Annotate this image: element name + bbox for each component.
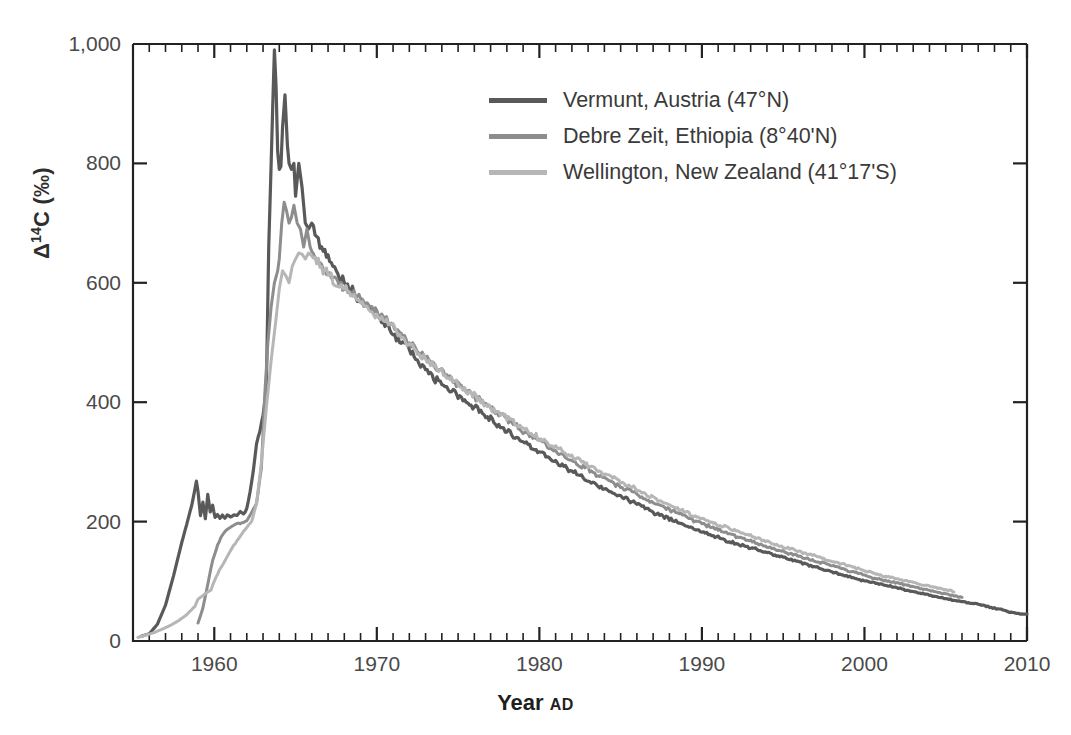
- x-tick-label: 1990: [679, 652, 726, 675]
- x-tick-label: 2010: [1004, 652, 1051, 675]
- y-axis-label-rest: C (‰): [29, 167, 54, 227]
- y-axis-label: Δ14C (‰): [28, 59, 55, 259]
- legend-item[interactable]: Vermunt, Austria (47°N): [489, 82, 897, 118]
- chart-legend: Vermunt, Austria (47°N)Debre Zeit, Ethio…: [489, 82, 897, 190]
- y-tick-label: 0: [109, 629, 121, 652]
- y-tick-label: 200: [86, 510, 121, 533]
- x-tick-label: 1960: [191, 652, 238, 675]
- legend-swatch-icon: [489, 134, 547, 139]
- x-axis-label: Year AD: [0, 690, 1071, 716]
- y-axis-label-delta: Δ: [29, 243, 54, 259]
- legend-label: Wellington, New Zealand (41°17'S): [563, 160, 897, 185]
- y-axis-label-superscript: 14: [28, 227, 44, 243]
- x-tick-label: 1980: [516, 652, 563, 675]
- x-tick-label: 2000: [841, 652, 888, 675]
- legend-item[interactable]: Debre Zeit, Ethiopia (8°40'N): [489, 118, 897, 154]
- legend-swatch-icon: [489, 170, 547, 175]
- x-axis-label-sub: AD: [550, 696, 574, 713]
- y-tick-label: 1,000: [68, 32, 121, 55]
- legend-label: Vermunt, Austria (47°N): [563, 88, 789, 113]
- legend-label: Debre Zeit, Ethiopia (8°40'N): [563, 124, 837, 149]
- y-tick-label: 600: [86, 271, 121, 294]
- chart-figure: 19601970198019902000201002004006008001,0…: [0, 0, 1071, 735]
- legend-swatch-icon: [489, 98, 547, 103]
- legend-item[interactable]: Wellington, New Zealand (41°17'S): [489, 154, 897, 190]
- y-tick-label: 400: [86, 390, 121, 413]
- series-line: [198, 202, 962, 623]
- y-tick-label: 800: [86, 151, 121, 174]
- x-tick-label: 1970: [353, 652, 400, 675]
- x-axis-label-main: Year: [497, 690, 544, 715]
